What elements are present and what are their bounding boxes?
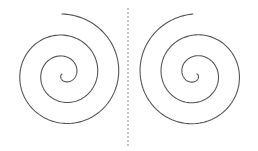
left-spiral bbox=[20, 14, 119, 123]
figure-canvas bbox=[0, 0, 258, 151]
right-spiral bbox=[140, 14, 239, 124]
spiral-diagram bbox=[0, 0, 258, 151]
